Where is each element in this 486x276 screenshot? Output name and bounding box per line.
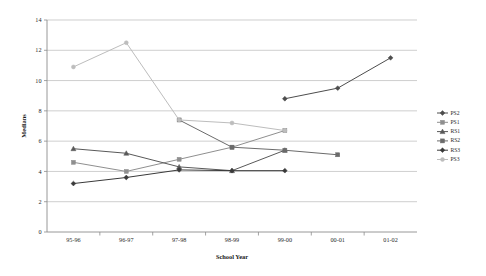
x-axis-title: School Year — [216, 253, 248, 260]
x-tick-label: 00-01 — [330, 236, 344, 243]
y-axis-title: Medians — [20, 114, 27, 138]
legend-label: PS1 — [451, 119, 460, 125]
data-point — [177, 118, 181, 122]
legend-item-ps3[interactable]: PS3 — [437, 156, 460, 162]
legend-label: PS2 — [451, 110, 460, 116]
legend-label: RS1 — [451, 128, 461, 134]
series-line — [73, 43, 284, 131]
legend-label: RS2 — [451, 137, 461, 143]
y-tick-label: 0 — [38, 228, 41, 235]
data-point — [124, 41, 128, 45]
data-point — [282, 168, 287, 173]
data-point — [124, 175, 129, 180]
y-tick-label: 6 — [38, 137, 41, 144]
y-tick-label: 14 — [35, 16, 41, 23]
chart-container: 02468101214 95-9696-9797-9898-9999-0000-… — [0, 0, 486, 276]
data-point — [71, 160, 75, 164]
x-tick-label: 95-96 — [66, 236, 80, 243]
y-tick-label: 12 — [35, 46, 41, 53]
y-axis: 02468101214 — [35, 16, 47, 235]
data-point — [71, 181, 76, 186]
data-point — [335, 86, 340, 91]
series-ps2 — [282, 55, 393, 101]
y-tick-label: 8 — [38, 107, 41, 114]
y-tick-label: 10 — [35, 77, 41, 84]
plot-series — [71, 41, 393, 186]
line-chart: 02468101214 95-9696-9797-9898-9999-0000-… — [0, 0, 486, 276]
y-tick-label: 4 — [38, 168, 41, 175]
data-point — [441, 139, 445, 143]
series-line — [285, 58, 391, 99]
series-rs2 — [177, 118, 340, 157]
x-tick-label: 98-99 — [225, 236, 239, 243]
data-point — [441, 120, 445, 124]
legend-item-rs2[interactable]: RS2 — [437, 137, 460, 143]
data-point — [124, 169, 128, 173]
x-tick-label: 99-00 — [278, 236, 292, 243]
legend-label: PS3 — [451, 156, 460, 162]
legend-item-rs1[interactable]: RS1 — [437, 128, 460, 134]
x-tick-label: 01-02 — [383, 236, 397, 243]
legend-item-ps2[interactable]: PS2 — [437, 110, 460, 116]
x-tick-label: 97-98 — [172, 236, 186, 243]
data-point — [440, 148, 445, 153]
chart-legend: PS2PS1RS1RS2RS3PS3 — [437, 110, 460, 163]
data-point — [177, 157, 181, 161]
x-axis: 95-9696-9797-9898-9999-0000-0101-02 — [47, 232, 417, 243]
legend-label: RS3 — [451, 147, 461, 153]
legend-item-rs3[interactable]: RS3 — [437, 147, 460, 153]
data-point — [440, 111, 445, 116]
data-point — [441, 158, 445, 162]
series-ps3 — [71, 41, 286, 133]
y-tick-label: 2 — [38, 198, 41, 205]
gridlines — [47, 20, 417, 202]
data-point — [283, 148, 287, 152]
data-point — [336, 153, 340, 157]
data-point — [283, 129, 287, 133]
series-rs3 — [71, 168, 287, 186]
data-point — [282, 96, 287, 101]
data-point — [71, 65, 75, 69]
data-point — [230, 121, 234, 125]
data-point — [388, 55, 393, 60]
series-line — [179, 120, 338, 155]
x-tick-label: 96-97 — [119, 236, 133, 243]
data-point — [230, 145, 234, 149]
legend-item-ps1[interactable]: PS1 — [437, 119, 460, 125]
